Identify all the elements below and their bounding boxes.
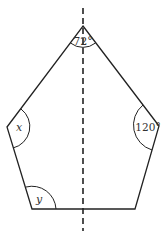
pentagon-diagram: 72° x 120° y bbox=[0, 0, 167, 233]
angle-label-right: 120° bbox=[135, 121, 160, 133]
angle-label-bottom-left: y bbox=[35, 193, 43, 206]
angle-label-left: x bbox=[16, 121, 23, 134]
angle-label-top: 72° bbox=[73, 35, 93, 48]
